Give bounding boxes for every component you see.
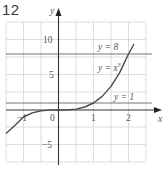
y-axis-arrow-icon	[56, 8, 62, 16]
annotation-y-equals-x-cubed: y = x3	[97, 61, 122, 73]
tick-label-y-neg5: −5	[42, 140, 52, 150]
tick-label-y-10: 10	[43, 35, 53, 45]
tick-label-y-5: 5	[49, 70, 54, 80]
annotation-curve-exponent: 3	[117, 61, 122, 68]
x-axis-label: x	[157, 114, 163, 124]
tick-label-x-neg1: −1	[17, 113, 27, 123]
annotation-y-equals-1: y = 1	[113, 92, 134, 102]
annotation-y-equals-8: y = 8	[97, 42, 118, 52]
graph: −1 0 1 2 10 5 −5 y x y = 8 y = x3 y = 1	[0, 0, 168, 172]
annotation-curve-base: y = x	[97, 63, 118, 73]
y-axis-label: y	[49, 6, 55, 16]
tick-label-x-0: 0	[50, 113, 55, 123]
x-axis-arrow-icon	[154, 107, 162, 113]
tick-label-x-1: 1	[91, 113, 96, 123]
tick-label-x-2: 2	[126, 113, 131, 123]
